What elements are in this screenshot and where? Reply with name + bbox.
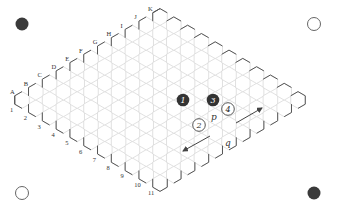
corner-marker-bottom-left [16,187,29,200]
hex-cell-J5[interactable] [194,50,209,67]
hex-cell-D6[interactable] [125,108,140,125]
hex-cell-G5[interactable] [153,75,168,92]
hex-cell-J2[interactable] [153,25,168,42]
column-label: 1 [10,106,13,113]
row-label: H [107,30,112,37]
hex-cell-G10[interactable] [222,117,237,134]
row-label: C [38,71,42,78]
hex-cell-F2[interactable] [98,58,113,75]
hex-cell-H4[interactable] [153,58,168,75]
hex-cell-I9[interactable] [236,92,251,109]
hex-cell-E8[interactable] [167,117,182,134]
hex-cell-J9[interactable] [249,83,264,100]
hex-cell-B10[interactable] [153,158,168,175]
hex-cell-H7[interactable] [194,83,209,100]
hex-cell-I3[interactable] [153,42,168,59]
hex-cell-J8[interactable] [236,75,251,92]
hex-cell-E10[interactable] [194,133,209,150]
svg-text:4: 4 [224,105,230,114]
hex-cell-B9[interactable] [139,150,154,167]
column-label: 2 [24,114,27,121]
column-label: 7 [93,156,97,163]
hex-cell-B4[interactable] [70,108,85,125]
hex-cell-E3[interactable] [98,75,113,92]
hex-cell-F5[interactable] [139,83,154,100]
hex-cell-I2[interactable] [139,34,154,51]
hex-cell-C3[interactable] [70,92,85,109]
row-label: A [10,88,15,95]
hex-cell-G3[interactable] [125,58,140,75]
hex-cell-E6[interactable] [139,100,154,117]
hex-cell-G8[interactable] [194,100,209,117]
column-label: 4 [51,131,55,138]
row-label: B [24,80,29,87]
hex-cell-D4[interactable] [98,92,113,109]
hex-cell-H2[interactable] [125,42,140,59]
stone-black-3: 3 [207,94,220,107]
hex-cell-C2[interactable] [56,83,71,100]
hex-cell-C6[interactable] [111,117,126,134]
hex-cell-G4[interactable] [139,67,154,84]
row-label: F [79,47,83,54]
hex-cell-E2[interactable] [84,67,99,84]
hex-cell-H3[interactable] [139,50,154,67]
row-label: K [148,5,153,12]
hex-cell-B5[interactable] [84,117,99,134]
column-label: 5 [65,139,68,146]
row-label: I [120,22,122,29]
hex-cell-D3[interactable] [84,83,99,100]
hex-cell-I6[interactable] [194,67,209,84]
hex-cells [15,9,306,192]
svg-text:3: 3 [210,96,215,105]
hex-cell-J6[interactable] [208,58,223,75]
column-label: 10 [134,181,141,188]
stone-black-1: 1 [177,94,190,107]
hex-cell-C10[interactable] [167,150,182,167]
hex-cell-I5[interactable] [180,58,195,75]
row-label: J [134,13,137,20]
row-label: G [93,38,98,45]
hex-cell-C5[interactable] [98,108,113,125]
svg-text:1: 1 [180,96,185,105]
hex-cell-B7[interactable] [111,133,126,150]
hex-cell-H5[interactable] [167,67,182,84]
cell-label-q: q [225,138,231,148]
hex-cell-J3[interactable] [167,34,182,51]
corner-marker-top-right [308,18,321,31]
hex-cell-B2[interactable] [42,92,57,109]
hex-cell-B8[interactable] [125,141,140,158]
hex-board: ABCDEFGHIJK1234567891011 1234 pq [0,0,337,215]
cell-label-p: p [211,112,217,122]
hex-cell-B3[interactable] [56,100,71,117]
hex-cell-J7[interactable] [222,67,237,84]
hex-cell-C9[interactable] [153,141,168,158]
hex-cell-E4[interactable] [111,83,126,100]
hex-cell-F8[interactable] [180,108,195,125]
hex-cell-D10[interactable] [180,141,195,158]
hex-cell-E5[interactable] [125,92,140,109]
hex-cell-D2[interactable] [70,75,85,92]
hex-cell-F4[interactable] [125,75,140,92]
hex-cell-H6[interactable] [180,75,195,92]
hex-cell-E7[interactable] [153,108,168,125]
hex-cell-C8[interactable] [139,133,154,150]
hex-cell-D7[interactable] [139,117,154,134]
hex-cell-I7[interactable] [208,75,223,92]
hex-cell-J4[interactable] [180,42,195,59]
hex-cell-C4[interactable] [84,100,99,117]
hex-cell-F6[interactable] [153,92,168,109]
hex-cell-I8[interactable] [222,83,237,100]
hex-cell-D8[interactable] [153,125,168,142]
column-label: 9 [120,172,123,179]
column-label: 3 [38,123,41,130]
hex-cell-B6[interactable] [98,125,113,142]
corner-marker-bottom-right [308,187,321,200]
hex-cell-I4[interactable] [167,50,182,67]
hex-cell-D5[interactable] [111,100,126,117]
hex-cell-G2[interactable] [111,50,126,67]
hex-cell-D9[interactable] [167,133,182,150]
hex-cell-F10[interactable] [208,125,223,142]
hex-cell-C7[interactable] [125,125,140,142]
hex-cell-F3[interactable] [111,67,126,84]
hex-cell-J10[interactable] [263,92,278,109]
